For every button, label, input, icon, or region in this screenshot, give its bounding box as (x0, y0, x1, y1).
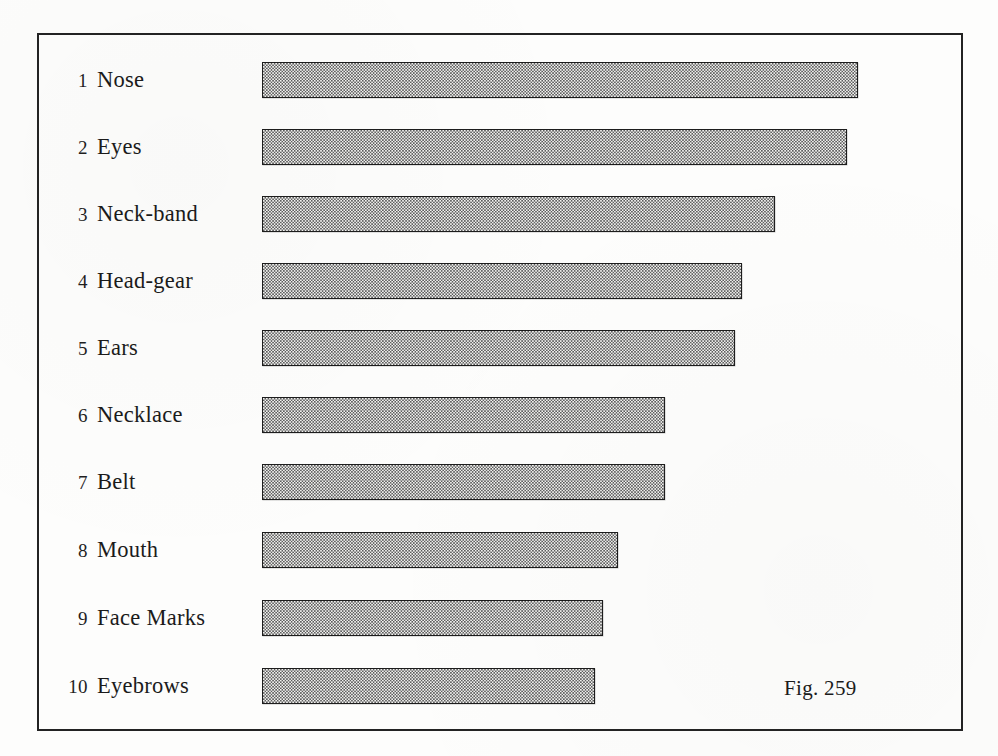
bar-label-group: 6Necklace (50, 397, 250, 433)
bar-rank-number: 5 (50, 339, 88, 358)
bar-category-label: Necklace (97, 404, 183, 427)
bar-category-label: Face Marks (97, 607, 205, 630)
chart-bar (262, 330, 735, 366)
bar-category-label: Neck-band (97, 203, 198, 226)
bar-rank-number: 4 (50, 272, 88, 291)
bar-rank-number: 1 (50, 71, 88, 90)
figure-plate: 1Nose2Eyes3Neck-band4Head-gear5Ears6Neck… (0, 0, 998, 756)
chart-bar (262, 600, 603, 636)
bar-label-group: 2Eyes (50, 129, 250, 165)
bar-label-group: 5Ears (50, 330, 250, 366)
bar-rank-number: 6 (50, 406, 88, 425)
bar-label-group: 1Nose (50, 62, 250, 98)
chart-bar (262, 532, 618, 568)
chart-row: 8Mouth (0, 532, 998, 568)
figure-caption: Fig. 259 (784, 678, 857, 699)
chart-bar (262, 129, 847, 165)
chart-row: 3Neck-band (0, 196, 998, 232)
bar-rank-number: 10 (50, 677, 88, 696)
chart-row: 5Ears (0, 330, 998, 366)
bar-rank-number: 8 (50, 541, 88, 560)
chart-bar (262, 397, 665, 433)
bar-category-label: Head-gear (97, 270, 193, 293)
bar-label-group: 8Mouth (50, 532, 250, 568)
bar-label-group: 4Head-gear (50, 263, 250, 299)
chart-bar (262, 196, 775, 232)
chart-row: 1Nose (0, 62, 998, 98)
bar-rank-number: 3 (50, 205, 88, 224)
chart-bar (262, 668, 595, 704)
bar-label-group: 9Face Marks (50, 600, 250, 636)
bar-label-group: 7Belt (50, 464, 250, 500)
chart-row: 7Belt (0, 464, 998, 500)
chart-row: 2Eyes (0, 129, 998, 165)
bar-category-label: Ears (97, 337, 138, 360)
chart-bar (262, 263, 742, 299)
chart-row: 9Face Marks (0, 600, 998, 636)
bar-rank-number: 9 (50, 609, 88, 628)
chart-bar (262, 62, 858, 98)
bar-category-label: Mouth (97, 539, 158, 562)
bar-category-label: Nose (97, 69, 144, 92)
horizontal-bar-chart: 1Nose2Eyes3Neck-band4Head-gear5Ears6Neck… (0, 0, 998, 756)
chart-row: 4Head-gear (0, 263, 998, 299)
bar-rank-number: 2 (50, 138, 88, 157)
bar-label-group: 10Eyebrows (50, 668, 250, 704)
bar-label-group: 3Neck-band (50, 196, 250, 232)
bar-category-label: Belt (97, 471, 136, 494)
chart-bar (262, 464, 665, 500)
bar-rank-number: 7 (50, 473, 88, 492)
bar-category-label: Eyes (97, 136, 142, 159)
chart-row: 6Necklace (0, 397, 998, 433)
bar-category-label: Eyebrows (97, 675, 189, 698)
